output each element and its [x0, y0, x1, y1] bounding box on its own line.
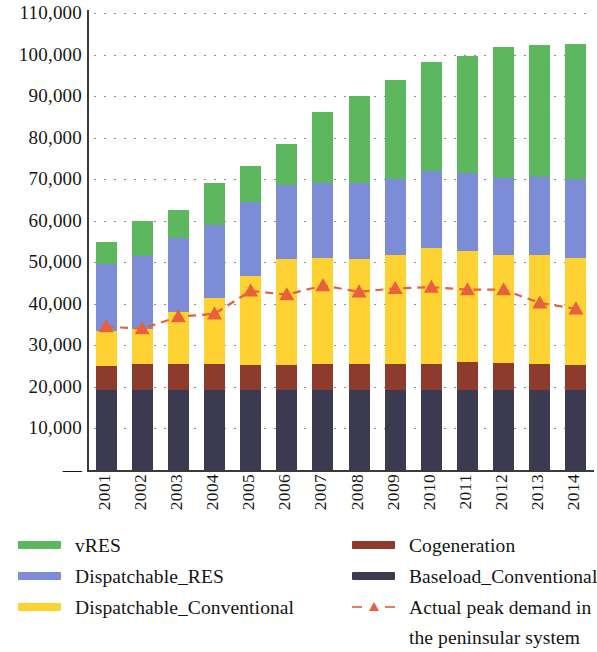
legend-color-swatch	[18, 603, 61, 611]
legend-item[interactable]: Dispatchable_RES	[18, 562, 348, 593]
x-axis-line	[87, 470, 594, 472]
x-axis-tick-label-2008: 2008	[349, 474, 370, 510]
x-axis-tick-labels: 2001200220032004200520062007200820092010…	[88, 474, 594, 528]
legend-color-swatch	[18, 572, 61, 580]
peak-demand-marker-2009	[388, 281, 403, 294]
legend-label: Actual peak demand in the peninsular sys…	[409, 593, 596, 652]
peak-demand-marker-2001	[99, 319, 114, 332]
peak-demand-marker-2003	[171, 309, 186, 322]
y-axis-tick-label: 20,000	[0, 377, 82, 396]
y-axis-tick-label: 90,000	[0, 86, 82, 105]
peak-demand-marker-2010	[424, 280, 439, 293]
x-axis-tick-label-2010: 2010	[421, 474, 442, 510]
legend-column-left: vRESDispatchable_RESDispatchable_Convent…	[18, 531, 348, 624]
y-axis-tick-label: 50,000	[0, 252, 82, 271]
y-axis-tick-labels: 110,000100,00090,00080,00070,00060,00050…	[0, 0, 82, 480]
x-axis-tick-label-2011: 2011	[457, 474, 478, 510]
peak-demand-markers	[99, 278, 584, 334]
legend-item[interactable]: Actual peak demand in the peninsular sys…	[352, 593, 596, 652]
legend-label: Dispatchable_Conventional	[75, 593, 294, 623]
x-axis-tick-label-2012: 2012	[493, 474, 514, 510]
plot-area	[88, 13, 594, 470]
peak-demand-line-layer	[88, 13, 594, 470]
y-axis-tick-label: 10,000	[0, 418, 82, 437]
legend-column-right: CogenerationBaseload_ConventionalActual …	[352, 531, 596, 652]
peak-demand-marker-2007	[315, 278, 330, 291]
x-axis-tick-label-2009: 2009	[385, 474, 406, 510]
y-axis-tick-label: 70,000	[0, 169, 82, 188]
legend-color-swatch	[18, 541, 61, 549]
y-axis-tick-label: 80,000	[0, 128, 82, 147]
x-axis-tick-label-2001: 2001	[96, 474, 117, 510]
x-axis-tick-label-2014: 2014	[565, 474, 586, 510]
peak-demand-marker-2004	[207, 306, 222, 319]
legend-label: Cogeneration	[409, 531, 515, 561]
x-axis-tick-label-2003: 2003	[168, 474, 189, 510]
peak-demand-svg	[88, 13, 594, 470]
x-axis-tick-label-2005: 2005	[240, 474, 261, 510]
x-axis-tick-label-2013: 2013	[529, 474, 550, 510]
legend-color-swatch	[352, 572, 395, 580]
y-axis-tick-label: 40,000	[0, 294, 82, 313]
y-axis-tick-label: 100,000	[0, 45, 82, 64]
peak-demand-marker-2012	[496, 282, 511, 295]
legend-color-swatch	[352, 541, 395, 549]
legend-line-marker-icon	[352, 600, 395, 614]
legend-item[interactable]: vRES	[18, 531, 348, 562]
legend-label: Dispatchable_RES	[75, 562, 224, 592]
y-axis-tick-label: 60,000	[0, 211, 82, 230]
legend-item[interactable]: Baseload_Conventional	[352, 562, 596, 593]
x-axis-tick-label-2004: 2004	[204, 474, 225, 510]
x-axis-tick-label-2002: 2002	[132, 474, 153, 510]
x-axis-tick-label-2006: 2006	[276, 474, 297, 510]
peak-demand-marker-2005	[243, 283, 258, 296]
legend-item[interactable]: Dispatchable_Conventional	[18, 593, 348, 624]
y-axis-tick-label: —	[0, 460, 82, 479]
chart-legend: vRESDispatchable_RESDispatchable_Convent…	[0, 531, 594, 638]
x-axis-tick-label-2007: 2007	[312, 474, 333, 510]
legend-item[interactable]: Cogeneration	[352, 531, 596, 562]
y-axis-tick-label: 30,000	[0, 335, 82, 354]
legend-label: Baseload_Conventional	[409, 562, 597, 592]
legend-label: vRES	[75, 531, 121, 561]
y-axis-tick-label: 110,000	[0, 3, 82, 22]
